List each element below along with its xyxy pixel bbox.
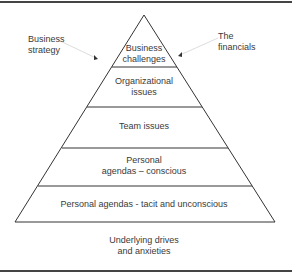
- label-line: issues: [94, 87, 194, 98]
- label-line: Organizational: [94, 76, 194, 87]
- left-arrow-head: [94, 55, 98, 60]
- label-line: Personal agendas - tacit and unconscious: [44, 199, 244, 210]
- the-financials-label: The financials: [218, 31, 256, 53]
- label-line: and anxieties: [84, 246, 204, 257]
- label-line: strategy: [28, 45, 65, 56]
- label-line: Business: [28, 34, 65, 45]
- pyramid-diagram: Business strategy The financials Busines…: [0, 0, 292, 274]
- label-line: Underlying drives: [84, 235, 204, 246]
- level-team-issues: Team issues: [94, 121, 194, 132]
- level-business-challenges: Business challenges: [114, 43, 174, 65]
- level-organizational-issues: Organizational issues: [94, 76, 194, 98]
- label-line: agendas – conscious: [84, 166, 204, 177]
- right-arrow-head: [178, 52, 182, 57]
- label-line: Business: [114, 43, 174, 54]
- right-arrow-line: [180, 38, 218, 55]
- business-strategy-label: Business strategy: [28, 34, 65, 56]
- base-underlying-drives: Underlying drives and anxieties: [84, 235, 204, 257]
- level-personal-agendas-conscious: Personal agendas – conscious: [84, 155, 204, 177]
- label-line: challenges: [114, 54, 174, 65]
- label-line: Personal: [84, 155, 204, 166]
- level-personal-agendas-tacit: Personal agendas - tacit and unconscious: [44, 199, 244, 210]
- label-line: financials: [218, 42, 256, 53]
- label-line: Team issues: [94, 121, 194, 132]
- label-line: The: [218, 31, 256, 42]
